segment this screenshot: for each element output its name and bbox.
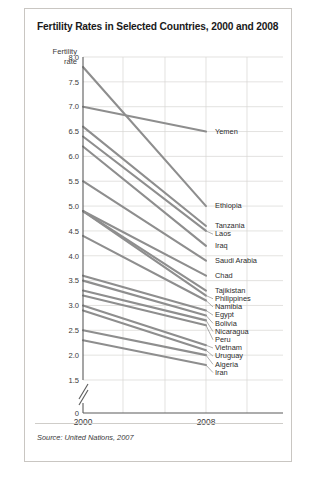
- label-leader-line: [206, 355, 213, 364]
- label-leader-lines: [206, 231, 213, 373]
- series-line: [83, 127, 206, 226]
- series-line: [83, 211, 206, 295]
- y-tick-label: 2.5: [68, 326, 79, 335]
- country-label: Chad: [215, 272, 233, 279]
- label-leader-line: [206, 325, 213, 339]
- y-tick-label: 5.0: [68, 202, 79, 211]
- country-label: Algeria: [215, 361, 238, 368]
- country-label: Ethiopia: [215, 202, 242, 209]
- label-leader-line: [206, 296, 213, 299]
- x-tick-label: 2000: [74, 417, 93, 427]
- country-label: Bolivia: [215, 320, 237, 327]
- y-tick-label: 3.0: [68, 301, 79, 310]
- chart-card: Fertility Rates in Selected Countries, 2…: [24, 8, 292, 462]
- country-label: Iran: [215, 369, 228, 376]
- series-lines: [83, 67, 206, 365]
- country-label: Iraq: [215, 242, 228, 249]
- country-label: Yemen: [215, 128, 238, 135]
- country-label: Egypt: [215, 311, 234, 318]
- country-label: Saudi Arabia: [215, 257, 257, 264]
- y-axis-ticks: 8.07.57.06.56.05.55.04.54.03.53.02.52.01…: [68, 53, 79, 418]
- source-note: Source: United Nations, 2007: [37, 433, 134, 442]
- y-tick-label: 2.0: [68, 351, 79, 360]
- series-line: [83, 67, 206, 206]
- slope-chart: 8.07.57.06.56.05.55.04.54.03.53.02.52.01…: [25, 9, 293, 463]
- label-leader-line: [206, 310, 213, 315]
- x-axis-ticks: 20002008: [74, 417, 216, 427]
- y-tick-label: 6.0: [68, 152, 79, 161]
- series-line: [83, 107, 206, 132]
- label-leader-line: [206, 345, 213, 348]
- y-tick-label: 6.5: [68, 127, 79, 136]
- y-tick-label: 3.5: [68, 276, 79, 285]
- series-line: [83, 330, 206, 355]
- label-leader-line: [206, 365, 213, 372]
- y-tick-label: 7.5: [68, 78, 79, 87]
- series-line: [83, 236, 206, 301]
- y-tick-label: 4.0: [68, 252, 79, 261]
- y-tick-label: 5.5: [68, 177, 79, 186]
- label-leader-line: [206, 300, 213, 306]
- country-label: Laos: [215, 230, 231, 237]
- chart-svg: 8.07.57.06.56.05.55.04.54.03.53.02.52.01…: [25, 9, 293, 463]
- source-divider: [35, 423, 283, 424]
- y-tick-label: 8.0: [68, 53, 79, 62]
- y-tick-label: 4.5: [68, 227, 79, 236]
- y-tick-label: 7.0: [68, 102, 79, 111]
- country-label: Uruguay: [215, 352, 243, 359]
- label-leader-line: [206, 231, 213, 234]
- x-tick-label: 2008: [197, 417, 216, 427]
- y-tick-label: 1.5: [68, 376, 79, 385]
